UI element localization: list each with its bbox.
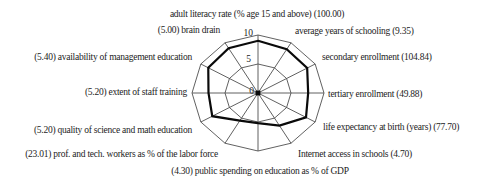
radar-svg [188,26,328,160]
radar-plot-area [188,26,328,160]
radar-chart-figure: adult literacy rate (% age 15 and above)… [0,0,482,190]
axis-label-life-expectancy: life expectancy at birth (years) (77.70) [323,122,459,133]
axis-label-tertiary-enrollment: tertiary enrollment (49.88) [328,89,422,100]
center-marker [256,91,261,96]
axis-label-adult-literacy: adult literacy rate (% age 15 and above)… [170,9,344,20]
axis-label-secondary-enrollment: secondary enrollment (104.84) [322,52,432,63]
axis-label-quality-science-math: (5.20) quality of science and math educa… [34,125,192,136]
axis-label-public-spending: (4.30) public spending on education as %… [171,166,348,177]
axis-label-staff-training: (5.20) extent of staff training [85,87,187,98]
axis-label-management-education: (5.40) availability of management educat… [34,52,192,63]
